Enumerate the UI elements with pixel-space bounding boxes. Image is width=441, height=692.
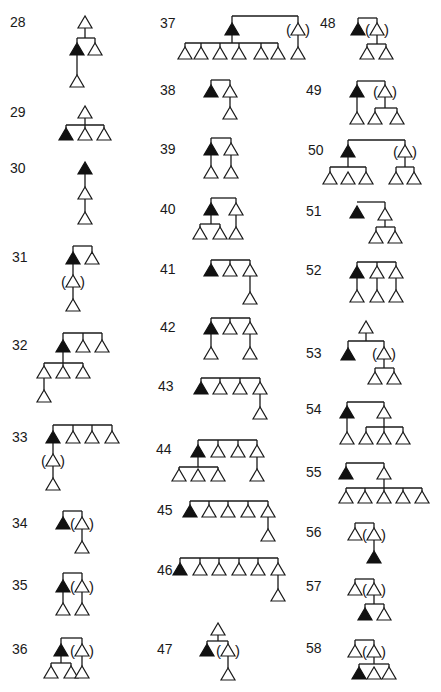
affected-triangle-icon xyxy=(59,128,73,140)
pedigree-number-label: 39 xyxy=(160,141,176,157)
unaffected-triangle-icon xyxy=(221,668,235,680)
affected-triangle-icon xyxy=(56,340,70,352)
unaffected-triangle-icon xyxy=(251,563,265,575)
pedigree-48: 48() xyxy=(320,15,393,59)
pedigree-number-label: 46 xyxy=(157,562,173,578)
affected-triangle-icon xyxy=(340,406,354,418)
uncertain-bracket-right: ) xyxy=(235,642,240,659)
uncertain-bracket-right: ) xyxy=(60,452,65,469)
pedigree-number-label: 45 xyxy=(157,502,173,518)
uncertain-bracket-left: ( xyxy=(362,643,367,660)
unaffected-triangle-icon xyxy=(97,128,111,140)
pedigree-39: 39 xyxy=(160,138,238,178)
unaffected-triangle-icon xyxy=(359,321,373,333)
unaffected-triangle-icon xyxy=(224,166,238,178)
unaffected-triangle-icon xyxy=(415,491,429,503)
pedigree-number-label: 32 xyxy=(12,337,28,353)
pedigree-number-label: 52 xyxy=(306,262,322,278)
unaffected-triangle-icon xyxy=(358,491,372,503)
unaffected-triangle-icon xyxy=(389,266,403,278)
unaffected-triangle-icon xyxy=(204,347,218,359)
affected-triangle-icon xyxy=(204,143,218,155)
uncertain-bracket-right: ) xyxy=(392,83,397,100)
unaffected-triangle-icon xyxy=(193,227,207,239)
pedigree-number-label: 49 xyxy=(306,82,322,98)
pedigree-number-label: 33 xyxy=(12,429,28,445)
affected-triangle-icon xyxy=(78,162,92,174)
unaffected-triangle-icon xyxy=(223,85,237,97)
unaffected-triangle-icon xyxy=(388,231,402,243)
uncertain-bracket-right: ) xyxy=(305,21,310,38)
affected-triangle-icon xyxy=(341,348,355,360)
unaffected-triangle-icon xyxy=(78,106,92,118)
pedigree-31: 31() xyxy=(12,246,99,311)
unaffected-triangle-icon xyxy=(377,467,391,479)
uncertain-bracket-right: ) xyxy=(384,21,389,38)
unaffected-triangle-icon xyxy=(253,382,267,394)
unaffected-triangle-icon xyxy=(229,203,243,215)
unaffected-triangle-icon xyxy=(359,432,373,444)
uncertain-bracket-left: ( xyxy=(70,642,75,659)
unaffected-triangle-icon xyxy=(390,112,404,124)
uncertain-bracket-left: ( xyxy=(365,21,370,38)
unaffected-triangle-icon xyxy=(88,43,102,55)
unaffected-triangle-icon xyxy=(78,16,92,28)
affected-triangle-icon xyxy=(350,206,364,218)
unaffected-triangle-icon xyxy=(241,505,255,517)
unaffected-triangle-icon xyxy=(70,75,84,87)
unaffected-triangle-icon xyxy=(178,47,192,59)
affected-triangle-icon xyxy=(350,266,364,278)
unaffected-triangle-icon xyxy=(367,583,381,595)
unaffected-triangle-icon xyxy=(254,47,268,59)
pedigree-number-label: 58 xyxy=(306,640,322,656)
unaffected-triangle-icon xyxy=(37,390,51,402)
unaffected-triangle-icon xyxy=(211,623,225,635)
affected-triangle-icon xyxy=(204,264,218,276)
unaffected-triangle-icon xyxy=(370,266,384,278)
pedigree-55: 55 xyxy=(306,463,429,503)
uncertain-bracket-left: ( xyxy=(286,21,291,38)
unaffected-triangle-icon xyxy=(66,275,80,287)
pedigree-53: 53() xyxy=(306,321,401,384)
unaffected-triangle-icon xyxy=(76,366,90,378)
uncertain-bracket-right: ) xyxy=(89,515,94,532)
unaffected-triangle-icon xyxy=(56,366,70,378)
pedigree-50: 50() xyxy=(308,140,421,184)
unaffected-triangle-icon xyxy=(339,491,353,503)
affected-triangle-icon xyxy=(191,445,205,457)
unaffected-triangle-icon xyxy=(368,372,382,384)
pedigree-33: 33() xyxy=(12,425,119,490)
pedigree-number-label: 34 xyxy=(12,515,28,531)
unaffected-triangle-icon xyxy=(359,172,373,184)
unaffected-triangle-icon xyxy=(370,23,384,35)
pedigree-52: 52 xyxy=(306,262,403,302)
pedigree-number-label: 53 xyxy=(306,345,322,361)
unaffected-triangle-icon xyxy=(85,431,99,443)
pedigree-number-label: 56 xyxy=(306,524,322,540)
unaffected-triangle-icon xyxy=(221,644,235,656)
affected-triangle-icon xyxy=(367,551,381,563)
unaffected-triangle-icon xyxy=(213,47,227,59)
unaffected-triangle-icon xyxy=(232,47,246,59)
pedigree-46: 46 xyxy=(157,558,285,601)
unaffected-triangle-icon xyxy=(389,290,403,302)
unaffected-triangle-icon xyxy=(202,505,216,517)
unaffected-triangle-icon xyxy=(243,347,257,359)
unaffected-triangle-icon xyxy=(378,85,392,97)
pedigree-number-label: 55 xyxy=(306,464,322,480)
unaffected-triangle-icon xyxy=(191,469,205,481)
pedigree-56: 56() xyxy=(306,523,386,563)
unaffected-triangle-icon xyxy=(231,445,245,457)
unaffected-triangle-icon xyxy=(194,47,208,59)
unaffected-triangle-icon xyxy=(78,212,92,224)
affected-triangle-icon xyxy=(54,644,68,656)
unaffected-triangle-icon xyxy=(233,382,247,394)
unaffected-triangle-icon xyxy=(232,563,246,575)
pedigree-number-label: 50 xyxy=(308,142,324,158)
pedigree-43: 43 xyxy=(158,378,267,419)
uncertain-bracket-right: ) xyxy=(381,526,386,543)
pedigree-54: 54 xyxy=(306,401,410,444)
unaffected-triangle-icon xyxy=(369,231,383,243)
pedigree-number-label: 40 xyxy=(160,201,176,217)
unaffected-triangle-icon xyxy=(250,469,264,481)
